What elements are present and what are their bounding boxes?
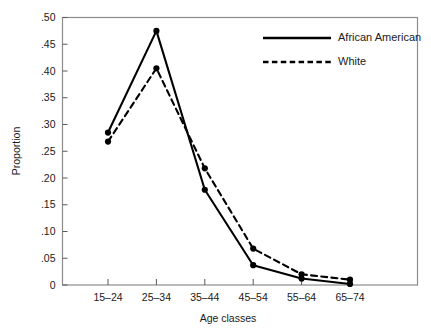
data-point-marker (347, 277, 353, 283)
data-point-marker (153, 65, 159, 71)
y-axis-tick-label: .45 (41, 38, 56, 50)
x-axis-title: Age classes (200, 312, 257, 324)
legend-label-2: White (338, 55, 366, 67)
y-axis-tick-label: .30 (41, 118, 56, 130)
y-axis-tick-label: .50 (41, 11, 56, 23)
x-axis-tick-label: 15–24 (93, 291, 122, 303)
chart-figure: 0.05.10.15.20.25.30.35.40.45.50 15–2425–… (0, 0, 431, 334)
data-point-marker (105, 129, 111, 135)
x-axis-tick-label: 55–64 (287, 291, 316, 303)
y-axis-tick-label: .40 (41, 65, 56, 77)
legend-label-1: African American (338, 31, 421, 43)
x-axis-tick-label: 65–74 (335, 291, 364, 303)
x-axis-tick-label: 35–44 (190, 291, 219, 303)
data-point-marker (105, 139, 111, 145)
proportion-by-age-line-chart: 0.05.10.15.20.25.30.35.40.45.50 15–2425–… (0, 0, 431, 334)
data-point-marker (153, 28, 159, 34)
data-point-marker (202, 165, 208, 171)
x-axis-tick-label: 25–34 (142, 291, 171, 303)
y-axis-tick-label: .25 (41, 145, 56, 157)
y-axis-tick-label: .20 (41, 172, 56, 184)
data-point-marker (250, 262, 256, 268)
y-axis-tick-label: .05 (41, 252, 56, 264)
chart-background (0, 0, 431, 334)
y-axis-tick-label: 0 (50, 279, 56, 291)
x-axis-tick-label: 45–54 (239, 291, 268, 303)
y-axis-title: Proportion (10, 127, 22, 176)
data-point-marker (202, 187, 208, 193)
data-point-marker (250, 246, 256, 252)
y-axis-tick-label: .35 (41, 91, 56, 103)
y-axis-tick-label: .15 (41, 198, 56, 210)
y-axis-tick-label: .10 (41, 225, 56, 237)
data-point-marker (299, 271, 305, 277)
